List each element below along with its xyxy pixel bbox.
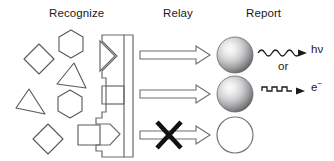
- analyte-square-2: [33, 124, 63, 154]
- analyte-square-1: [24, 44, 54, 74]
- analyte-square-unbound: [78, 125, 100, 145]
- electron-charge-sup: −: [317, 79, 322, 88]
- analyte-hexagon-2: [58, 90, 82, 118]
- relay-arrow-2: [140, 85, 210, 103]
- receptor-body: [96, 35, 133, 157]
- relay-arrow-group: [140, 46, 210, 148]
- analyte-triangle-1: [57, 63, 86, 88]
- output-label-connector: or: [278, 60, 288, 72]
- electron-wave-arrow: [262, 87, 305, 95]
- electron-arrowhead: [296, 88, 305, 95]
- analyte-shape-group: [16, 30, 100, 154]
- analyte-hexagon-1: [59, 30, 83, 58]
- bound-square: [106, 86, 124, 104]
- output-label-photon: hν: [311, 43, 323, 55]
- diagram-graphics: [0, 0, 334, 161]
- relay-arrow-1: [140, 46, 210, 64]
- analyte-triangle-2: [16, 89, 45, 114]
- bound-triangle: [100, 41, 115, 71]
- reporter-sphere-2: [217, 76, 253, 112]
- reporter-sphere-3: [217, 117, 253, 153]
- output-label-electron: e−: [311, 81, 322, 93]
- reporter-group: [217, 37, 253, 153]
- sensing-schematic-figure: Recognize Relay Report: [0, 0, 334, 161]
- photon-wave-arrow: [258, 50, 307, 57]
- photon-arrowhead: [298, 50, 307, 57]
- reporter-sphere-1: [217, 37, 253, 73]
